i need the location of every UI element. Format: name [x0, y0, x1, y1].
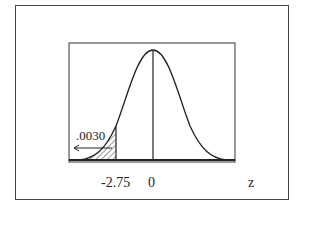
- tick-label-cutoff: -2.75: [101, 175, 130, 191]
- plot-box: [69, 43, 235, 162]
- tick-label-zero: 0: [148, 175, 155, 191]
- axis-label-z: z: [248, 175, 254, 191]
- area-label: .0030: [76, 128, 105, 144]
